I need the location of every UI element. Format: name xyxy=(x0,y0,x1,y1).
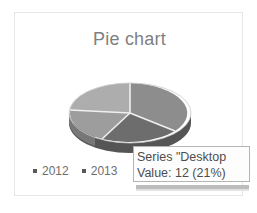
tooltip-value-line: Value: 12 (21%) xyxy=(137,165,249,181)
pie-slice-1 xyxy=(70,83,130,113)
legend-item-2012[interactable]: 2012 xyxy=(33,164,69,178)
legend-item-2013[interactable]: 2013 xyxy=(82,164,118,178)
pie-chart-plot-area[interactable] xyxy=(55,67,205,153)
legend-swatch-icon xyxy=(82,169,86,173)
pie-chart-3d-graphic[interactable] xyxy=(55,67,205,153)
legend-item-label: 2013 xyxy=(91,164,118,178)
legend-swatch-icon xyxy=(33,169,37,173)
chart-title: Pie chart xyxy=(15,29,244,49)
chart-screenshot: Pie chart xyxy=(0,0,257,213)
chart-datapoint-tooltip: Series "Desktop Value: 12 (21%) xyxy=(133,146,250,182)
tooltip-shadow-soft xyxy=(136,189,249,191)
tooltip-series-line: Series "Desktop xyxy=(137,149,249,165)
legend-item-label: 2012 xyxy=(42,164,69,178)
